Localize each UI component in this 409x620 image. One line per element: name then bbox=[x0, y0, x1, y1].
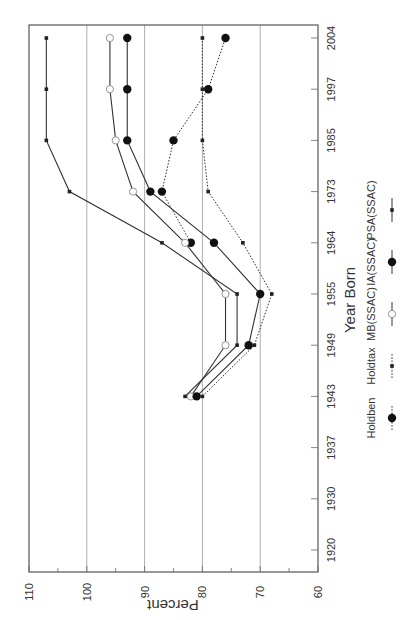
data-point-psa-ssac bbox=[45, 139, 49, 143]
data-point-holdtax bbox=[201, 139, 205, 143]
year-tick-label: 1973 bbox=[325, 179, 337, 203]
data-point-mb-ssac bbox=[129, 188, 136, 195]
percent-tick-label: 60 bbox=[312, 586, 324, 598]
x-axis-title: Year Born bbox=[341, 267, 358, 333]
data-point-ia-ssac bbox=[192, 392, 200, 400]
data-point-holdtax bbox=[201, 36, 205, 40]
data-point-ia-ssac bbox=[123, 136, 131, 144]
percent-tick-label: 90 bbox=[139, 586, 151, 598]
chart: 11010090807060 1920193019371943194919551… bbox=[0, 0, 409, 620]
year-tick-label: 1920 bbox=[325, 538, 337, 562]
legend-label: MB(SSAC) bbox=[365, 287, 377, 341]
data-point-holdtax bbox=[201, 395, 205, 399]
data-point-holdben bbox=[221, 34, 229, 42]
data-point-mb-ssac bbox=[222, 290, 229, 297]
y-axis-title: Percent bbox=[146, 597, 199, 614]
legend-label: Holdben bbox=[365, 398, 377, 439]
data-point-mb-ssac bbox=[181, 239, 188, 246]
legend-label: Holdtax bbox=[365, 347, 377, 385]
legend-item-holdben: Holdben bbox=[365, 398, 396, 439]
year-tick-label: 1949 bbox=[325, 333, 337, 357]
legend-item-ia-ssac: IA(SSAC) bbox=[365, 238, 396, 286]
data-point-holdtax bbox=[253, 343, 257, 347]
legend-label: IA(SSAC) bbox=[365, 238, 377, 286]
percent-tick-label: 70 bbox=[254, 586, 266, 598]
legend-item-psa-ssac: PSA(SSAC) bbox=[365, 180, 394, 239]
data-point-psa-ssac bbox=[68, 190, 72, 194]
legend-marker bbox=[388, 258, 396, 266]
data-point-holdben bbox=[158, 187, 166, 195]
percent-tick-label: 80 bbox=[196, 586, 208, 598]
data-point-psa-ssac bbox=[235, 292, 239, 296]
plot-frame bbox=[29, 25, 318, 572]
year-tick-label: 1964 bbox=[325, 231, 337, 255]
data-point-mb-ssac bbox=[106, 34, 113, 41]
year-tick-label: 1930 bbox=[325, 487, 337, 511]
year-axis: 1920193019371943194919551964197319851997… bbox=[311, 26, 337, 562]
data-point-psa-ssac bbox=[160, 241, 164, 245]
percent-tick-label: 110 bbox=[23, 583, 35, 601]
legend-item-mb-ssac: MB(SSAC) bbox=[365, 287, 396, 341]
data-point-holdtax bbox=[241, 241, 245, 245]
data-point-ia-ssac bbox=[123, 85, 131, 93]
data-point-ia-ssac bbox=[146, 187, 154, 195]
year-tick-label: 1955 bbox=[325, 282, 337, 306]
year-tick-label: 1985 bbox=[325, 128, 337, 152]
year-tick-label: 2004 bbox=[325, 26, 337, 50]
series-line-ia-ssac bbox=[127, 38, 260, 396]
data-point-holdtax bbox=[201, 87, 205, 91]
year-tick-label: 1937 bbox=[325, 435, 337, 459]
legend-marker bbox=[388, 414, 396, 422]
legend-marker bbox=[388, 310, 395, 317]
data-point-psa-ssac bbox=[45, 36, 49, 40]
data-point-holdtax bbox=[206, 190, 210, 194]
data-point-ia-ssac bbox=[244, 341, 252, 349]
legend-marker bbox=[390, 364, 394, 368]
data-point-ia-ssac bbox=[123, 34, 131, 42]
legend: HoldbenHoldtaxMB(SSAC)IA(SSAC)PSA(SSAC) bbox=[365, 180, 396, 438]
series-holdben bbox=[158, 34, 230, 247]
percent-tick-label: 100 bbox=[81, 583, 93, 601]
data-point-psa-ssac bbox=[183, 395, 187, 399]
data-point-mb-ssac bbox=[222, 342, 229, 349]
data-point-mb-ssac bbox=[106, 86, 113, 93]
data-point-holdtax bbox=[270, 292, 274, 296]
data-point-mb-ssac bbox=[112, 137, 119, 144]
gridlines bbox=[87, 25, 260, 572]
data-point-psa-ssac bbox=[235, 343, 239, 347]
data-point-psa-ssac bbox=[45, 87, 49, 91]
year-tick-label: 1943 bbox=[325, 384, 337, 408]
legend-item-holdtax: Holdtax bbox=[365, 347, 394, 385]
data-point-ia-ssac bbox=[256, 290, 264, 298]
data-point-ia-ssac bbox=[210, 239, 218, 247]
percent-axis: 11010090807060 bbox=[23, 566, 324, 601]
data-point-holdben bbox=[204, 85, 212, 93]
year-tick-label: 1997 bbox=[325, 77, 337, 101]
data-point-holdben bbox=[169, 136, 177, 144]
legend-marker bbox=[390, 208, 394, 212]
legend-label: PSA(SSAC) bbox=[365, 180, 377, 239]
series-group bbox=[45, 34, 274, 401]
